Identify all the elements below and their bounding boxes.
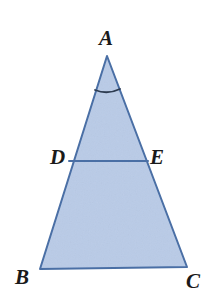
vertex-label-b: B <box>15 267 29 288</box>
vertex-label-e: E <box>150 147 164 168</box>
vertex-label-d: D <box>50 147 65 168</box>
geometry-figure: A D E B C <box>0 0 212 308</box>
vertex-label-c: C <box>186 271 200 292</box>
vertex-label-a: A <box>99 28 113 49</box>
